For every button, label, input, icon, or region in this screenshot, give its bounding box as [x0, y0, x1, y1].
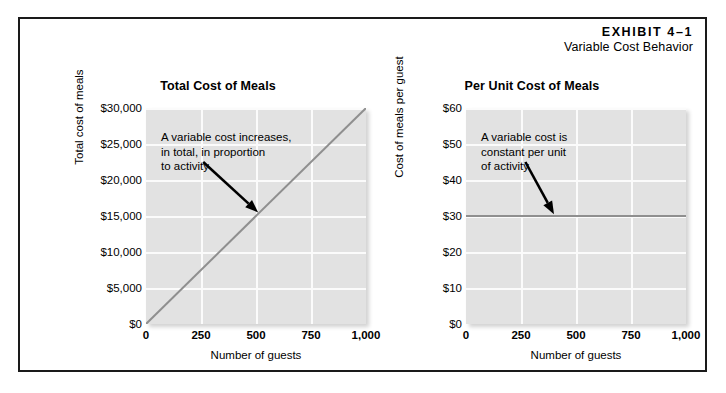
y-axis-tick-label: $0	[449, 318, 462, 330]
y-axis-tick-labels: $0$10$20$30$40$50$60	[388, 108, 462, 324]
annotation-text: A variable cost is constant per unit of …	[481, 130, 567, 174]
x-axis-tick-label: 750	[301, 329, 320, 341]
x-axis-title: Number of guests	[466, 349, 686, 361]
plot-area: A variable cost increases, in total, in …	[146, 108, 366, 324]
annotation-text: A variable cost increases, in total, in …	[161, 130, 291, 174]
y-axis-tick-label: $0	[129, 318, 142, 330]
x-axis-tick-label: 500	[566, 329, 585, 341]
x-axis-tick-label: 0	[463, 329, 469, 341]
y-axis-tick-label: $50	[443, 138, 462, 150]
x-axis-tick-label: 1,000	[352, 329, 381, 341]
y-axis-tick-label: $10,000	[100, 246, 142, 258]
exhibit-subtitle: Variable Cost Behavior	[564, 40, 693, 54]
y-axis-tick-label: $40	[443, 174, 462, 186]
exhibit-number: EXHIBIT 4–1	[564, 25, 693, 39]
exhibit-frame: EXHIBIT 4–1 Variable Cost Behavior Total…	[18, 17, 707, 372]
x-axis-tick-label: 500	[246, 329, 265, 341]
x-axis-title: Number of guests	[146, 349, 366, 361]
plot-area: A variable cost is constant per unit of …	[466, 108, 686, 324]
y-axis-tick-label: $25,000	[100, 138, 142, 150]
y-axis-tick-label: $30	[443, 210, 462, 222]
y-axis-tick-label: $60	[443, 102, 462, 114]
y-axis-tick-label: $10	[443, 282, 462, 294]
x-axis-tick-labels: 02505007501,000	[466, 329, 686, 347]
y-axis-tick-labels: $0$5,000$10,000$15,000$20,000$25,000$30,…	[68, 108, 142, 324]
y-axis-tick-label: $5,000	[107, 282, 142, 294]
x-axis-tick-labels: 02505007501,000	[146, 329, 366, 347]
chart-title: Per Unit Cost of Meals	[362, 79, 692, 93]
chart-title: Total Cost of Meals	[42, 79, 372, 93]
y-axis-tick-label: $20	[443, 246, 462, 258]
x-axis-tick-label: 250	[191, 329, 210, 341]
y-axis-tick-label: $30,000	[100, 102, 142, 114]
x-axis-tick-label: 1,000	[672, 329, 701, 341]
x-axis-tick-label: 250	[511, 329, 530, 341]
x-axis-tick-label: 750	[621, 329, 640, 341]
exhibit-header: EXHIBIT 4–1 Variable Cost Behavior	[564, 25, 693, 54]
y-axis-tick-label: $15,000	[100, 210, 142, 222]
y-axis-tick-label: $20,000	[100, 174, 142, 186]
x-axis-tick-label: 0	[143, 329, 149, 341]
